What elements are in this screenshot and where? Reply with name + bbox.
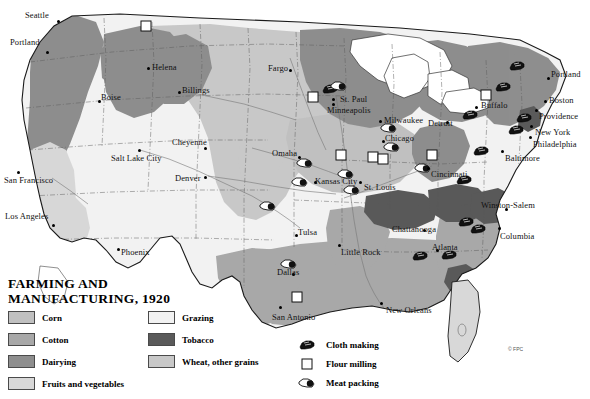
city-dot [46,51,49,54]
city-dot [547,77,550,80]
city-dot [427,167,430,170]
city-dot [147,67,150,70]
city-label: Denver [175,174,201,183]
city-label: Los Angeles [5,212,48,221]
legend-item: Fruits and vegetables [8,377,124,390]
meat-packing-icon [330,79,348,93]
legend-item: Wheat, other grains [148,355,259,368]
flour-milling-icon [332,148,350,162]
city-dot [289,69,292,72]
legend-title: FARMING AND MANUFACTURING, 1920 [8,277,308,306]
legend-swatch [8,333,35,346]
city-label: Portland [10,38,40,47]
cloth-making-icon [461,108,479,122]
city-label: Cheyenne [172,138,207,147]
city-label: Little Rock [341,248,381,257]
cloth-making-icon [297,337,317,353]
city-label: Columbia [500,232,534,241]
legend-label: Wheat, other grains [182,357,259,367]
flour-milling-icon [297,356,317,372]
city-dot [544,100,547,103]
symbol-legend-item: Cloth making [297,335,379,354]
legend-label: Tobacco [182,335,214,345]
city-dot [178,91,181,94]
symbol-legend-item: Meat packing [297,373,379,392]
legend-label: Cotton [42,335,69,345]
city-label: New Orleans [386,306,432,315]
legend-title-line1: FARMING AND [8,277,308,292]
cloth-making-icon [507,123,525,137]
city-label: Minneapolis [327,106,371,115]
city-dot [117,248,120,251]
city-dot [332,98,335,101]
city-dot [52,224,55,227]
city-dot [380,302,383,305]
meat-packing-icon [291,175,309,189]
city-dot [535,109,538,112]
city-label: Chattanooga [392,225,436,234]
city-dot [529,136,532,139]
city-label: Milwaukee [384,116,423,125]
meat-packing-icon [259,199,277,213]
city-label: Buffalo [481,101,508,110]
cloth-making-icon [508,59,526,73]
city-label: Billings [182,86,210,95]
city-label: Detroit [428,119,453,128]
city-label: Baltimore [505,154,540,163]
city-dot [298,156,301,159]
map-legend: FARMING AND MANUFACTURING, 1920 CornCott… [8,277,308,385]
city-label: St. Paul [340,95,367,104]
city-label: Seattle [25,11,49,20]
city-label: San Francisco [4,176,53,185]
legend-item: Grazing [148,311,214,324]
flour-milling-icon [304,90,322,104]
city-label: Tulsa [298,228,317,237]
symbol-legend: Cloth makingFlour millingMeat packing [297,335,379,392]
legend-title-line2: MANUFACTURING, 1920 [8,292,308,307]
city-label: Dallas [277,268,299,277]
city-dot [359,181,362,184]
cloth-making-icon [472,144,490,158]
city-label: Phoenix [121,248,150,257]
symbol-legend-label: Meat packing [326,378,379,388]
city-label: Salt Lake City [111,154,162,163]
city-dot [138,149,141,152]
cloth-making-icon [469,222,487,236]
city-label: Philadelphia [533,140,577,149]
city-dot [498,227,501,230]
map-container: SeattlePortlandHelenaBoiseBillingsFargoC… [0,0,590,399]
city-label: Providence [539,112,578,121]
symbol-legend-label: Cloth making [326,340,379,350]
legend-label: Fruits and vegetables [42,379,124,389]
copyright-notice: © FPC [508,346,523,352]
city-dot [530,125,533,128]
meat-packing-icon [297,375,317,391]
city-dot [57,20,60,23]
cloth-making-icon [411,249,429,263]
legend-swatch [148,311,175,324]
symbol-legend-item: Flour milling [297,354,379,373]
legend-swatch [8,377,35,390]
cloth-making-icon [494,80,512,94]
flour-milling-icon [374,152,392,166]
legend-item: Dairying [8,355,76,368]
city-label: Atlanta [432,243,458,252]
city-label: New York [535,128,570,137]
city-label: Omaha [272,149,297,158]
city-dot [17,171,20,174]
city-label: Boise [101,93,121,102]
city-dot [501,150,504,153]
legend-item: Cotton [8,333,69,346]
city-label: Fargo [268,64,288,73]
city-dot [379,120,382,123]
city-label: Kansas City [315,177,357,186]
legend-label: Corn [42,313,62,323]
legend-item: Tobacco [148,333,214,346]
city-label: Chicago [385,134,414,143]
legend-swatch-grid: CornCottonDairyingFruits and vegetablesG… [8,311,308,385]
city-label: Cincinnati [431,170,467,179]
symbol-legend-label: Flour milling [326,359,377,369]
city-label: Boston [549,96,574,105]
city-label: St. Louis [364,183,396,192]
legend-swatch [148,355,175,368]
